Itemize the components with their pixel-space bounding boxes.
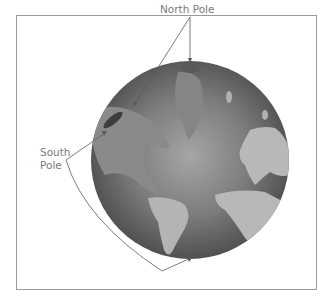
north-pole-label: North Pole	[160, 3, 214, 16]
south-pole-label-line1: South	[40, 146, 71, 159]
south-pole-label: South Pole	[40, 146, 71, 172]
south-pole-label-line2: Pole	[40, 159, 71, 172]
globe	[91, 61, 290, 259]
north-pole-marker	[180, 63, 200, 73]
